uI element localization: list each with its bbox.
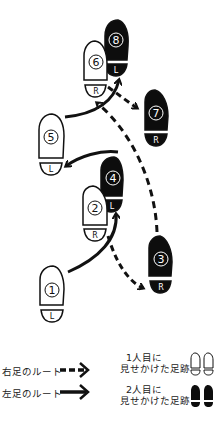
foot-letter: R (92, 231, 98, 240)
footprint-5-left-light: 5 L (39, 114, 64, 175)
footprint-6-right-light: 6 R (84, 41, 107, 97)
step-number: 1 (49, 284, 56, 297)
legend-first-person-line2: 見せかけた足跡 (120, 363, 190, 374)
foot-letter: R (158, 283, 164, 292)
legend-right-route-arrow (60, 363, 88, 377)
legend-filled-footprints-icon (191, 385, 213, 407)
legend-second-person-line1: 2人目に (120, 384, 190, 395)
right-route-arrow-2-to-3 (108, 236, 143, 288)
legend-left-route-arrow (60, 385, 88, 399)
step-number: 2 (92, 202, 99, 215)
footprint-2-right-light: 2 R (83, 186, 107, 241)
legend-second-person: 2人目に 見せかけた足跡 (120, 384, 190, 406)
legend-right-route: 右足のルート (2, 365, 62, 377)
foot-letter: L (49, 165, 54, 174)
footprint-3-right-dark: 3 R (149, 236, 172, 293)
footprint-8-left-dark: 8 L (105, 20, 128, 76)
foot-letter: L (50, 312, 55, 321)
legend-second-person-line2: 見せかけた足跡 (120, 395, 190, 406)
legend-left-route-label: 左足のルート (2, 388, 62, 399)
legend-outline-footprints-icon (191, 353, 213, 375)
footprint-1-left-light: 1 L (40, 266, 64, 322)
step-number: 5 (48, 131, 55, 144)
legend-first-person-line1: 1人目に (120, 352, 190, 363)
step-number: 3 (158, 253, 165, 266)
step-number: 8 (113, 34, 120, 47)
step-number: 4 (110, 172, 117, 185)
step-number: 7 (153, 107, 160, 120)
legend-first-person: 1人目に 見せかけた足跡 (120, 352, 190, 374)
foot-letter: R (153, 136, 159, 145)
legend-left-route: 左足のルート (2, 387, 62, 399)
foot-letter: L (110, 202, 115, 211)
foot-letter: L (114, 66, 119, 75)
legend-right-route-label: 右足のルート (2, 366, 62, 377)
step-number: 6 (93, 56, 100, 69)
foot-letter: R (93, 87, 99, 96)
footprint-7-right-dark: 7 R (145, 90, 168, 146)
